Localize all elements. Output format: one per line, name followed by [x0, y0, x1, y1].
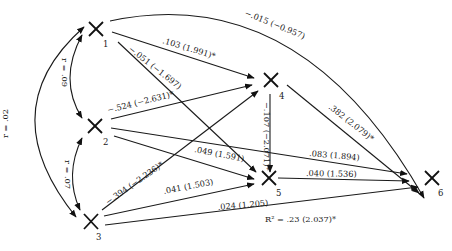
r-squared-label: R² = .23 (2.037)* — [265, 214, 336, 224]
correlation-arc-1-3 — [35, 27, 84, 217]
svg-text:1: 1 — [103, 39, 108, 49]
path-label-1-6: −.015 (−0.957) — [243, 8, 306, 41]
svg-text:5: 5 — [276, 188, 281, 198]
node-3: 3 — [84, 214, 101, 242]
path-label-3-4: −.394 (−2.236)* — [103, 159, 165, 206]
node-6: 6 — [425, 171, 443, 198]
node-1: 1 — [89, 22, 108, 49]
svg-text:4: 4 — [279, 91, 284, 101]
correlation-label-1-3: r = .02 — [0, 109, 10, 138]
path-label-2-5: .049 (1.591) — [194, 144, 246, 163]
path-diagram: 1 2 3 4 5 6 r = .09 r = .07 r = .02 −.01… — [0, 0, 452, 251]
path-label-2-4: −.524 (−2.631)* — [106, 89, 175, 115]
svg-text:2: 2 — [103, 137, 108, 147]
node-2: 2 — [88, 119, 108, 147]
correlation-label-1-2: r = .09 — [60, 58, 70, 87]
node-4: 4 — [264, 73, 284, 101]
path-label-1-5: −.051 (−1.697) — [127, 44, 184, 92]
node-5: 5 — [262, 171, 281, 198]
svg-text:3: 3 — [96, 232, 101, 242]
path-label-3-6: .024 (1.205) — [217, 198, 268, 212]
path-label-4-5: −.107 (−2.071)* — [262, 102, 272, 170]
path-label-5-6: .040 (1.536) — [306, 168, 357, 179]
correlation-label-2-3: r = .07 — [63, 160, 73, 189]
svg-text:6: 6 — [438, 188, 443, 198]
correlation-arc-1-2 — [70, 35, 82, 118]
path-label-3-5: .041 (1.503) — [162, 176, 214, 195]
